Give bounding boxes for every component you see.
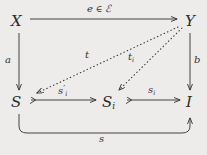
edge-label-b-text: b: [194, 54, 200, 65]
element-of-icon: ∈: [93, 4, 105, 14]
node-S-label: S: [11, 93, 21, 111]
node-Y: Y: [185, 14, 195, 29]
edge-s-curve: [19, 114, 190, 133]
edge-label-t-text: t: [85, 49, 89, 60]
node-X: X: [11, 14, 22, 29]
edge-label-s-prime-i: s′i: [58, 85, 67, 98]
commutative-diagram: X Y S Si I e ∈ ℰ a b t ti s′i si s: [0, 0, 207, 155]
edge-label-e-set: ℰ: [105, 3, 111, 14]
node-S: S: [11, 95, 21, 110]
edge-label-t: t: [85, 50, 89, 60]
diagram-canvas: [0, 0, 207, 155]
edge-label-si: si: [148, 85, 155, 97]
node-Y-label: Y: [185, 12, 195, 30]
edge-label-s: s: [99, 134, 104, 144]
edge-label-s-text: s: [99, 133, 104, 144]
edge-label-ti: ti: [128, 52, 134, 64]
edge-label-a-text: a: [5, 54, 11, 65]
node-I-label: I: [186, 93, 192, 111]
node-X-label: X: [11, 12, 22, 30]
edge-label-ti-subscript: i: [132, 56, 134, 64]
edge-label-si-subscript: i: [153, 89, 155, 97]
node-Si-label: S: [102, 93, 112, 111]
edge-t-line: [37, 27, 178, 93]
edge-label-a: a: [5, 55, 11, 65]
edge-label-b: b: [194, 55, 200, 65]
node-Si-subscript: i: [112, 101, 115, 111]
node-Si: Si: [102, 95, 115, 111]
edge-label-s-prime-i-subscript: i: [65, 90, 67, 98]
node-I: I: [186, 95, 192, 110]
edge-label-e: e ∈ ℰ: [87, 4, 111, 14]
